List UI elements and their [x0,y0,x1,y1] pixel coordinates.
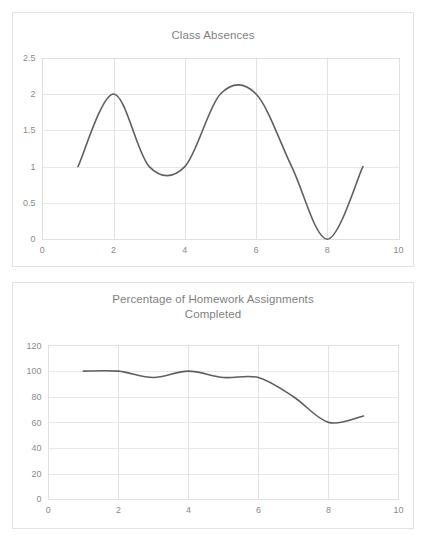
svg-text:1: 1 [30,162,35,172]
svg-text:100: 100 [27,366,42,376]
svg-text:10: 10 [394,245,404,255]
svg-text:6: 6 [254,245,259,255]
svg-text:1.5: 1.5 [23,125,35,135]
svg-text:4: 4 [182,245,187,255]
svg-text:0: 0 [40,245,45,255]
svg-text:0.5: 0.5 [23,198,35,208]
svg-text:40: 40 [31,443,41,453]
chart-panel-class-absences[interactable]: Class Absences 00.511.522.50246810 [12,12,414,267]
svg-text:2: 2 [116,505,121,515]
chart-plot-class-absences: 00.511.522.50246810 [13,13,413,266]
svg-text:10: 10 [394,505,404,515]
svg-text:0: 0 [30,234,35,244]
svg-text:4: 4 [186,505,191,515]
chart-panel-homework-completed[interactable]: Percentage of Homework Assignments Compl… [12,282,414,529]
svg-text:80: 80 [31,392,41,402]
svg-text:120: 120 [27,341,42,351]
svg-text:20: 20 [31,469,41,479]
svg-text:8: 8 [326,505,331,515]
svg-text:2: 2 [30,89,35,99]
svg-text:8: 8 [325,245,330,255]
svg-text:60: 60 [31,418,41,428]
svg-text:0: 0 [46,505,51,515]
svg-text:6: 6 [256,505,261,515]
chart-plot-homework-completed: 0204060801001200246810 [13,283,413,528]
svg-text:2.5: 2.5 [23,53,35,63]
svg-text:2: 2 [111,245,116,255]
svg-text:0: 0 [36,494,41,504]
